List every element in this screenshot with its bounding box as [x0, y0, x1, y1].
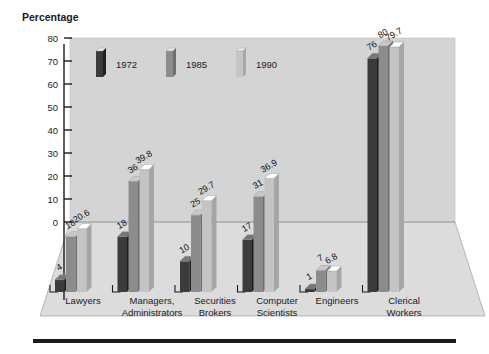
y-tick-label: 80: [47, 33, 58, 44]
legend-swatch-front: [166, 51, 173, 77]
y-tick-label: 60: [47, 79, 58, 90]
bar-front: [180, 261, 190, 292]
bar-front: [316, 270, 326, 292]
bar-front: [243, 240, 253, 292]
bar-side: [149, 165, 154, 292]
legend-swatch-side: [173, 48, 176, 77]
y-tick-label: 50: [47, 102, 58, 113]
chart-svg: 80706050403020100 Percentage 19721985199…: [0, 0, 489, 354]
y-tick-label: 70: [47, 56, 58, 67]
y-tick-label: 30: [47, 148, 58, 159]
bar-front: [202, 201, 212, 292]
bottom-rule: [33, 339, 456, 343]
legend-entry-label: 1985: [186, 59, 207, 70]
bar-front: [55, 280, 65, 292]
category-label: Managers,: [130, 295, 175, 306]
category-label: Clerical: [388, 295, 420, 306]
bar-front: [265, 179, 275, 292]
bar-front: [327, 271, 337, 292]
category-label: Computer: [256, 295, 298, 306]
legend-swatch-front: [96, 51, 103, 77]
y-tick-label: 20: [47, 171, 58, 182]
bar-front: [254, 197, 264, 292]
bar-front: [368, 58, 378, 292]
bar-front: [129, 181, 139, 292]
y-tick-label: 40: [47, 125, 58, 136]
legend-swatch-side: [243, 48, 246, 77]
bar-front: [191, 215, 201, 292]
legend-entry-label: 1990: [256, 59, 277, 70]
bar-side: [274, 174, 279, 292]
legend-swatch-front: [236, 51, 243, 77]
category-label-line2: Administrators: [122, 307, 183, 318]
y-tick-label: 10: [47, 194, 58, 205]
bar-chart-figure: 80706050403020100 Percentage 19721985199…: [0, 0, 489, 354]
category-label: Engineers: [316, 295, 359, 306]
category-label: Securities: [194, 295, 236, 306]
legend-entry-label: 1972: [116, 59, 137, 70]
bar-side: [399, 42, 404, 292]
y-axis-title: Percentage: [22, 11, 79, 23]
bar-front: [118, 237, 128, 292]
bar-front: [66, 237, 76, 292]
bar-front: [390, 47, 400, 292]
bar-front: [140, 170, 150, 292]
category-label-line2: Scientists: [257, 307, 298, 318]
legend-swatch-side: [103, 48, 106, 77]
bar-front: [77, 229, 87, 292]
bar-front: [305, 289, 315, 292]
category-label-line2: Workers: [386, 307, 421, 318]
bar-front: [379, 46, 389, 292]
y-tick-label: 0: [53, 217, 58, 228]
bar-side: [87, 224, 92, 292]
category-label: Lawyers: [65, 295, 101, 306]
category-label-line2: Brokers: [199, 307, 232, 318]
bar-side: [212, 196, 217, 292]
